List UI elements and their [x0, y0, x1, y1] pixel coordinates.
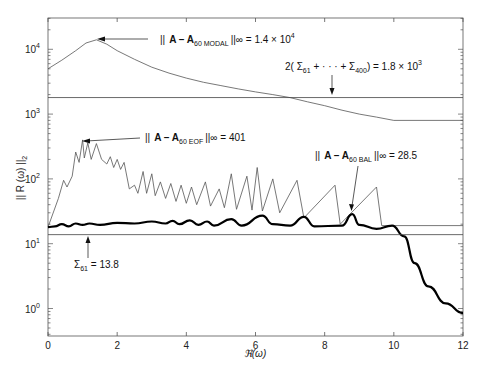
y-tick-label: 104 — [25, 42, 40, 55]
y-tick-label: 103 — [25, 107, 40, 120]
chart: 024681012 104103102101100 ℜ(ω) || R (ω) … — [0, 0, 480, 374]
svg-text:Σ61 = 13.8: Σ61 = 13.8 — [74, 259, 119, 272]
svg-text:||A – A60 BAL||∞ = 28.5: ||A – A60 BAL||∞ = 28.5 — [315, 150, 418, 163]
x-tick-label: 12 — [457, 340, 469, 351]
x-axis-label: ℜ(ω) — [244, 348, 266, 359]
annotation-bal: ||A – A60 BAL||∞ = 28.5 — [315, 150, 418, 211]
annotation-sum: 2( Σ61 + · · · + Σ400) = 1.8 × 103 — [285, 59, 422, 95]
x-tick-label: 0 — [45, 340, 51, 351]
x-tick-label: 4 — [184, 340, 190, 351]
annotation-sigma61: Σ61 = 13.8 — [74, 236, 119, 272]
plot-series — [48, 40, 463, 313]
series-line — [48, 40, 463, 121]
y-tick-label: 100 — [25, 302, 40, 315]
svg-text:2( Σ61 + · · · + Σ400) = 1.8 ×: 2( Σ61 + · · · + Σ400) = 1.8 × 103 — [285, 59, 422, 74]
x-tick-label: 2 — [114, 340, 120, 351]
annotation-eof: ||A – A60 EOF||∞ = 401 — [82, 132, 246, 145]
annotation-modal: ||A – A60 MODAL||∞ = 1.4 × 104 — [97, 32, 295, 47]
y-tick-labels: 104103102101100 — [25, 42, 40, 314]
y-tick-label: 102 — [25, 172, 40, 185]
x-tick-label: 8 — [322, 340, 328, 351]
svg-text:||A – A60 EOF||∞ = 401: ||A – A60 EOF||∞ = 401 — [145, 132, 246, 145]
y-tick-label: 101 — [25, 237, 40, 250]
x-tick-label: 10 — [388, 340, 400, 351]
svg-text:||A – A60 MODAL||∞ = 1.4 × 104: ||A – A60 MODAL||∞ = 1.4 × 104 — [160, 32, 295, 47]
